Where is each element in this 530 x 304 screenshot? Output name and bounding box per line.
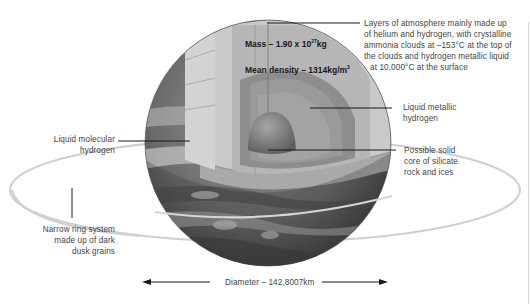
core-label: Possible solid core of silicate rock and… [404,145,458,178]
diameter-label: Diameter – 142,8007km [225,277,314,288]
arrow-left-head-icon [142,279,151,285]
ring-label: Narrow ring system made up of dark dusk … [20,224,115,257]
mass-stat: Mass – 1.90 x 1027kg [245,38,327,49]
atmosphere-label: Layers of atmosphere mainly made up of h… [364,18,512,73]
liquid-molecular-label: Liquid molecular hydrogen [30,134,115,156]
jupiter-diagram: Mass – 1.90 x 1027kg Mean density – 1314… [0,0,530,304]
page-edge-divider [528,22,529,304]
density-stat: Mean density – 1314kg/m3 [245,64,350,75]
arrow-right-head-icon [379,279,388,285]
liquid-metallic-label: Liquid metallic hydrogen [403,102,456,124]
